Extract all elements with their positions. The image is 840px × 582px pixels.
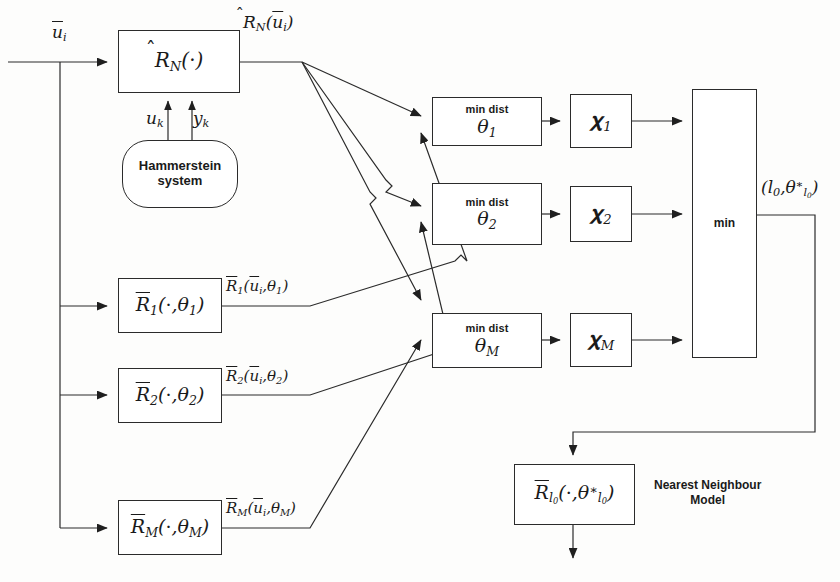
- min-dist-2-label: θ2: [477, 208, 496, 232]
- chi-M-block[interactable]: 𝛘M: [570, 313, 632, 367]
- block-diagram: R̂N(·) Hammerstein system R1(·,θ1) R2(·,…: [0, 0, 840, 582]
- hammerstein-label-line1: Hammerstein: [139, 159, 221, 174]
- model-2-block[interactable]: R2(·,θ2): [118, 368, 222, 423]
- estimator-block[interactable]: R̂N(·): [118, 30, 240, 93]
- wire-estimator-to-mindist2: [302, 62, 421, 206]
- model-1-block[interactable]: R1(·,θ1): [118, 278, 222, 333]
- min-dist-M-caption: min dist: [466, 322, 509, 335]
- hammerstein-system-block[interactable]: Hammerstein system: [122, 140, 238, 208]
- model-2-label: R2(·,θ2): [136, 384, 205, 408]
- hammerstein-label-line2: system: [158, 174, 203, 189]
- nearest-neighbour-model-block[interactable]: Rl0(·,θ∗l0): [514, 464, 635, 525]
- min-selector-block[interactable]: min: [692, 89, 757, 358]
- model-M-block[interactable]: RM(·,θM): [118, 500, 222, 555]
- signal-modelM-output-label: RM(ui,θM): [226, 499, 296, 518]
- nearest-neighbour-annotation: Nearest Neighbour Model: [654, 478, 761, 508]
- min-dist-M-block[interactable]: min dist θM: [432, 313, 542, 368]
- min-dist-1-caption: min dist: [466, 103, 509, 116]
- chi-2-block[interactable]: 𝛘2: [570, 186, 632, 242]
- chi-1-label: 𝛘1: [590, 109, 611, 134]
- chi-M-label: 𝛘M: [588, 328, 615, 353]
- chi-2-label: 𝛘2: [590, 202, 611, 227]
- min-dist-M-label: θM: [475, 335, 499, 359]
- min-dist-1-label: θ1: [477, 116, 496, 140]
- min-dist-2-block[interactable]: min dist θ2: [432, 183, 542, 245]
- nearest-neighbour-model-label: Rl0(·,θ∗l0): [535, 482, 615, 507]
- signal-yk-label: yk: [193, 108, 209, 130]
- min-selector-label: min: [714, 217, 735, 231]
- signal-model2-output-label: R2(ui,θ2): [226, 367, 288, 386]
- signal-min-output-label: (l0,θ∗l0): [761, 177, 818, 200]
- signal-model1-output-label: R1(ui,θ1): [226, 277, 288, 296]
- estimator-label: R̂N(·): [155, 49, 204, 74]
- model-1-label: R1(·,θ1): [136, 294, 205, 318]
- wire-estimator-to-mindist1: [302, 62, 421, 116]
- min-dist-1-block[interactable]: min dist θ1: [432, 97, 542, 146]
- wire-estimator-to-mindistM: [302, 62, 421, 300]
- chi-1-block[interactable]: 𝛘1: [570, 94, 632, 148]
- nn-annotation-line1: Nearest Neighbour: [654, 478, 761, 492]
- nn-annotation-line2: Model: [690, 493, 725, 507]
- model-M-label: RM(·,θM): [131, 516, 209, 540]
- signal-uk-label: uk: [146, 108, 164, 130]
- signal-input-label: ui: [52, 22, 67, 44]
- signal-estimator-output-label: R̂N(ui): [243, 12, 293, 34]
